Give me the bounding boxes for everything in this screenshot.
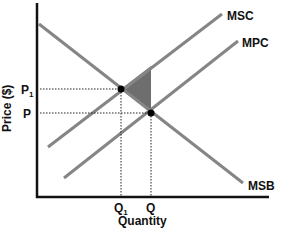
p-label: P (23, 107, 31, 121)
mpc-label: MPC (242, 36, 269, 50)
msb-curve (39, 24, 243, 183)
social-optimum-dot (118, 86, 125, 93)
p1-label: P1 (21, 83, 34, 99)
y-axis-title: Price ($) (0, 85, 14, 132)
msc-curve (48, 14, 222, 147)
market-equilibrium-dot (148, 110, 155, 117)
x-axis-title: Quantity (118, 214, 167, 228)
q-label: Q (146, 201, 155, 215)
msc-label: MSC (227, 9, 254, 23)
msb-label: MSB (248, 179, 275, 193)
externality-diagram: MSC MPC MSB P1 P Q1 Q Quantity Price ($) (0, 0, 282, 232)
